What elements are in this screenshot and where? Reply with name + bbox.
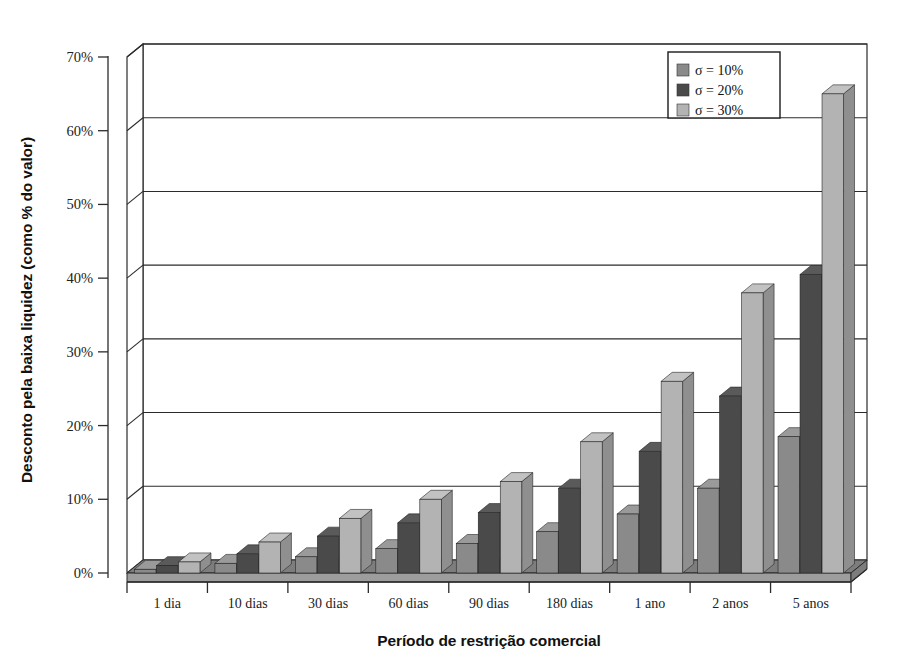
bar — [420, 490, 453, 573]
legend-swatch — [677, 104, 689, 116]
bar-side-face — [441, 490, 452, 573]
bar-front-face — [581, 442, 603, 573]
x-tick-label: 60 dias — [389, 596, 429, 611]
bar-front-face — [617, 514, 639, 573]
bar-front-face — [500, 482, 522, 573]
bar-front-face — [317, 536, 339, 573]
bar-front-face — [295, 557, 317, 573]
x-tick-label: 90 dias — [469, 596, 509, 611]
bar-front-face — [156, 566, 178, 573]
y-tick-label: 50% — [66, 196, 93, 212]
y-tick-label: 30% — [66, 344, 93, 360]
bar-front-face — [398, 523, 420, 573]
bar-front-face — [822, 94, 844, 573]
x-tick-label: 10 dias — [228, 596, 268, 611]
bar-front-face — [178, 562, 200, 573]
x-tick-label: 2 anos — [712, 596, 748, 611]
bar-front-face — [778, 437, 800, 573]
bar-front-face — [698, 488, 720, 573]
bar — [581, 433, 614, 573]
bar — [339, 509, 372, 573]
bar-side-face — [844, 85, 855, 573]
bar-side-face — [361, 509, 372, 573]
bar-chart: 0%10%20%30%40%50%60%70% 1 dia10 dias30 d… — [0, 0, 898, 665]
legend-swatch — [677, 64, 689, 76]
bar-front-face — [478, 513, 500, 573]
bar-front-face — [420, 499, 442, 573]
bar-front-face — [259, 542, 281, 573]
bar-front-face — [339, 518, 361, 573]
x-tick-label: 1 ano — [635, 596, 666, 611]
legend-label: σ = 10% — [695, 63, 743, 78]
bar-front-face — [742, 293, 764, 573]
y-tick-label: 40% — [66, 270, 93, 286]
legend-label: σ = 30% — [695, 103, 743, 118]
bar-front-face — [456, 544, 478, 573]
chart-container: 0%10%20%30%40%50%60%70% 1 dia10 dias30 d… — [0, 0, 898, 665]
bar-side-face — [602, 433, 613, 573]
bar — [500, 473, 533, 573]
bar-front-face — [237, 554, 259, 573]
bar-side-face — [683, 372, 694, 573]
bar — [742, 284, 775, 573]
bar-front-face — [720, 396, 742, 573]
chart-legend: σ = 10%σ = 20%σ = 30% — [668, 52, 780, 118]
y-tick-label: 20% — [66, 418, 93, 434]
bar-front-face — [661, 381, 683, 573]
bar-front-face — [559, 488, 581, 573]
bar — [259, 533, 292, 573]
y-tick-label: 0% — [74, 565, 93, 581]
bar — [822, 85, 855, 573]
bar-front-face — [800, 274, 822, 573]
y-tick-label: 60% — [66, 123, 93, 139]
y-tick-label: 10% — [66, 491, 93, 507]
x-tick-label: 30 dias — [308, 596, 348, 611]
left-wall — [127, 44, 143, 573]
bar-side-face — [522, 473, 533, 573]
bar-side-face — [763, 284, 774, 573]
y-axis-title: Desconto pela baixa liquidez (como % do … — [18, 137, 35, 483]
bar-front-face — [537, 532, 559, 573]
x-tick-label: 180 dias — [546, 596, 593, 611]
bar-front-face — [639, 451, 661, 573]
legend-label: σ = 20% — [695, 83, 743, 98]
x-tick-label: 1 dia — [153, 596, 181, 611]
bar-front-face — [376, 549, 398, 573]
floor-front — [127, 573, 851, 582]
bar-front-face — [215, 563, 237, 573]
y-tick-label: 70% — [66, 49, 93, 65]
x-tick-label: 5 anos — [793, 596, 829, 611]
legend-swatch — [677, 84, 689, 96]
x-axis-title: Período de restrição comercial — [377, 632, 601, 649]
bar — [661, 372, 694, 573]
bar-front-face — [134, 569, 156, 573]
